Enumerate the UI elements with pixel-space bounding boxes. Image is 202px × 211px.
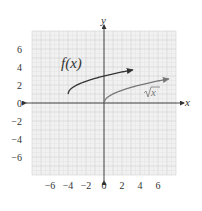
f-label: f(x) bbox=[61, 55, 82, 72]
y-tick-label: 4 bbox=[17, 62, 22, 73]
x-tick-label: 6 bbox=[156, 180, 161, 191]
x-tick-label: −2 bbox=[81, 180, 92, 191]
y-tick-label: 2 bbox=[17, 80, 22, 91]
sqrt-label-text: x bbox=[150, 86, 156, 98]
y-axis-label: y bbox=[100, 14, 106, 26]
y-tick-label: −6 bbox=[11, 152, 22, 163]
y-tick-label: 0 bbox=[17, 98, 22, 109]
y-tick-label: −2 bbox=[11, 116, 22, 127]
x-tick-label: 2 bbox=[120, 180, 125, 191]
x-axis-label: x bbox=[184, 96, 190, 108]
x-tick-label: 4 bbox=[138, 180, 143, 191]
x-tick-label: 0 bbox=[102, 180, 107, 191]
x-tick-label: −4 bbox=[63, 180, 74, 191]
y-tick-label: −4 bbox=[11, 134, 22, 145]
chart: −6−4−202466420−2−4−6 x y f(x) x bbox=[0, 0, 202, 211]
x-tick-label: −6 bbox=[45, 180, 56, 191]
y-tick-label: 6 bbox=[17, 44, 22, 55]
